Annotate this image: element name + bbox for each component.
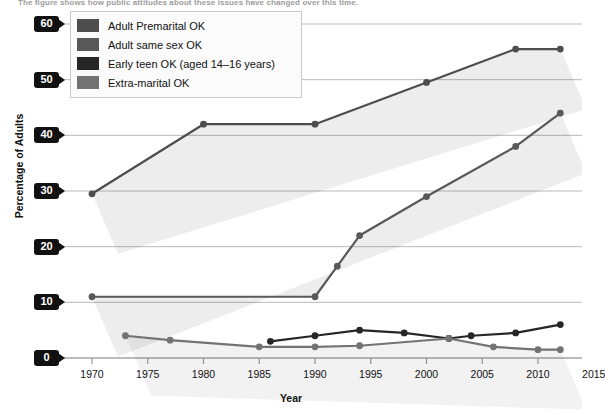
data-point — [122, 332, 129, 339]
data-point — [256, 343, 263, 350]
data-point — [490, 343, 497, 350]
y-tick: 20 — [34, 238, 59, 255]
y-tick-badge: 0 — [34, 350, 59, 366]
legend-label: Extra-marital OK — [108, 77, 189, 89]
data-point — [89, 293, 96, 300]
data-point — [445, 335, 452, 342]
legend-item[interactable]: Early teen OK (aged 14–16 years) — [77, 54, 295, 73]
data-point — [423, 193, 430, 200]
data-point — [167, 337, 174, 344]
y-tick-badge: 20 — [34, 239, 59, 255]
data-point — [356, 327, 363, 334]
x-tick-label: 1985 — [248, 368, 271, 380]
data-point — [512, 46, 519, 53]
y-tick: 60 — [34, 16, 59, 33]
legend-swatch — [77, 76, 99, 89]
y-tick-badge: 40 — [34, 127, 59, 143]
data-point — [312, 343, 319, 350]
x-tick-label: 2015 — [582, 368, 605, 380]
x-tick-label: 1995 — [359, 368, 382, 380]
x-tick-label: 2005 — [471, 368, 494, 380]
data-point — [468, 332, 475, 339]
data-point — [557, 110, 564, 117]
data-point — [557, 321, 564, 328]
y-tick: 10 — [34, 294, 59, 311]
legend-item[interactable]: Adult Premarital OK — [77, 16, 295, 35]
legend-label: Adult Premarital OK — [108, 20, 205, 32]
y-tick: 30 — [34, 183, 59, 200]
y-tick: 50 — [34, 71, 59, 88]
legend-swatch — [77, 38, 99, 51]
x-tick-label: 2000 — [415, 368, 438, 380]
y-axis-title: Percentage of Adults — [13, 91, 25, 241]
data-point — [557, 46, 564, 53]
x-tick-label: 2010 — [526, 368, 549, 380]
y-tick: 0 — [34, 350, 59, 367]
legend-item[interactable]: Extra-marital OK — [77, 73, 295, 92]
legend-label: Adult same sex OK — [108, 39, 202, 51]
data-point — [356, 342, 363, 349]
data-point — [512, 143, 519, 150]
x-tick-label: 1975 — [136, 368, 159, 380]
data-point — [557, 346, 564, 353]
x-tick-label: 1990 — [303, 368, 326, 380]
y-tick-badge: 60 — [34, 16, 59, 32]
data-point — [356, 232, 363, 239]
data-point — [423, 79, 430, 86]
x-tick-label: 1970 — [80, 368, 103, 380]
data-point — [89, 190, 96, 197]
data-point — [512, 330, 519, 337]
data-point — [312, 332, 319, 339]
legend-swatch — [77, 57, 99, 70]
data-point — [312, 121, 319, 128]
y-tick-badge: 10 — [34, 294, 59, 310]
chart-legend: Adult Premarital OKAdult same sex OKEarl… — [70, 11, 302, 98]
data-point — [535, 346, 542, 353]
y-tick-badge: 30 — [34, 183, 59, 199]
data-point — [312, 293, 319, 300]
x-axis-title: Year — [0, 392, 582, 404]
y-tick-badge: 50 — [34, 72, 59, 88]
x-tick-label: 1980 — [192, 368, 215, 380]
legend-label: Early teen OK (aged 14–16 years) — [108, 58, 275, 70]
data-point — [334, 263, 341, 270]
data-point — [401, 330, 408, 337]
y-tick: 40 — [34, 127, 59, 144]
data-point — [200, 121, 207, 128]
data-point — [267, 338, 274, 345]
legend-swatch — [77, 19, 99, 32]
legend-item[interactable]: Adult same sex OK — [77, 35, 295, 54]
